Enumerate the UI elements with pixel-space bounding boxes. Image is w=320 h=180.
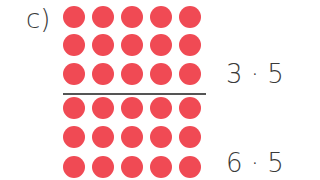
dot	[121, 126, 143, 148]
dot	[179, 34, 201, 56]
dot	[92, 97, 114, 119]
dot	[121, 6, 143, 28]
dot	[179, 63, 201, 85]
dot-row	[63, 156, 208, 178]
dot-row	[63, 34, 208, 56]
dot	[150, 34, 172, 56]
dot	[150, 156, 172, 178]
dot	[92, 126, 114, 148]
dot	[63, 156, 85, 178]
dot	[92, 156, 114, 178]
dot	[121, 63, 143, 85]
dot-row	[63, 97, 208, 119]
dot	[150, 6, 172, 28]
dot	[121, 97, 143, 119]
dot-row	[63, 63, 208, 85]
dot-row	[63, 126, 208, 148]
dot	[63, 126, 85, 148]
dot	[63, 6, 85, 28]
expression-bottom: 6 · 5	[226, 148, 284, 178]
dot	[92, 63, 114, 85]
dot	[150, 126, 172, 148]
dot	[150, 63, 172, 85]
divider-line	[63, 93, 206, 95]
dot	[63, 34, 85, 56]
dot	[150, 97, 172, 119]
dot	[179, 6, 201, 28]
dot	[92, 6, 114, 28]
dot-row	[63, 6, 208, 28]
dot	[63, 97, 85, 119]
dot	[63, 63, 85, 85]
dot	[121, 34, 143, 56]
part-label: c)	[26, 4, 50, 34]
dot	[92, 34, 114, 56]
dot	[179, 156, 201, 178]
dot	[179, 126, 201, 148]
dot	[121, 156, 143, 178]
dot	[179, 97, 201, 119]
expression-top: 3 · 5	[226, 59, 284, 89]
